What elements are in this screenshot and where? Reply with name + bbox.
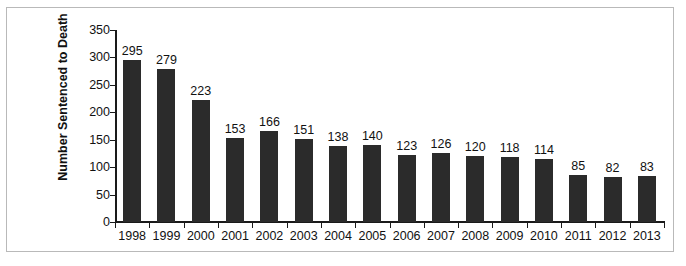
y-axis-tick-label: 300 [74, 51, 110, 63]
x-axis-label: 2002 [252, 229, 286, 243]
x-axis-tick [561, 221, 562, 228]
chart-frame: Number Sentenced to Death 05010015020025… [6, 7, 674, 252]
x-axis-tick [458, 221, 459, 228]
x-axis-label: 2013 [630, 229, 664, 243]
x-axis-tick [184, 221, 185, 228]
x-axis-tick [287, 221, 288, 228]
x-axis-label: 2012 [595, 229, 629, 243]
x-axis-label: 2004 [321, 229, 355, 243]
y-axis-tick-label: 100 [74, 161, 110, 173]
x-axis-label: 1999 [149, 229, 183, 243]
x-axis-tick [492, 221, 493, 228]
x-axis-tick [355, 221, 356, 228]
x-axis-tick [595, 221, 596, 228]
x-axis-label: 2010 [527, 229, 561, 243]
x-axis-tick [630, 221, 631, 228]
x-axis-tick [390, 221, 391, 228]
y-axis-tick-label: 150 [74, 134, 110, 146]
x-axis-tick [321, 221, 322, 228]
x-axis-label: 2000 [184, 229, 218, 243]
x-axis-tick [252, 221, 253, 228]
y-axis-tick-label: 200 [74, 106, 110, 118]
x-axis-tick [664, 221, 665, 228]
x-axis-label: 2008 [458, 229, 492, 243]
y-axis-tick-label: 250 [74, 79, 110, 91]
y-axis-tick-label: 50 [74, 189, 110, 201]
x-axis-label: 2005 [355, 229, 389, 243]
y-axis-tick-labels: 050100150200250300350 [67, 30, 110, 222]
x-axis-label: 2011 [561, 229, 595, 243]
x-axis-label: 2009 [492, 229, 526, 243]
x-axis-tick [424, 221, 425, 228]
x-axis-label: 2001 [218, 229, 252, 243]
x-axis-tick [149, 221, 150, 228]
y-axis-tick-label: 0 [74, 216, 110, 228]
y-axis-title-container: Number Sentenced to Death [35, 30, 61, 222]
x-axis-tick [218, 221, 219, 228]
x-axis-tick [527, 221, 528, 228]
x-axis-label: 2006 [390, 229, 424, 243]
x-axis-label: 2007 [424, 229, 458, 243]
x-axis-tick [115, 221, 116, 228]
x-axis-label: 1998 [115, 229, 149, 243]
x-axis-label: 2003 [287, 229, 321, 243]
y-axis-tick-label: 350 [74, 24, 110, 36]
x-axis-labels-container: 1998199920002001200220032004200520062007… [115, 8, 664, 253]
